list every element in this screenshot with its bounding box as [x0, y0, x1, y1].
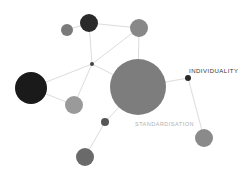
node-standardisation — [110, 59, 166, 115]
node-n3 — [130, 19, 148, 37]
node-n10 — [195, 129, 213, 147]
node-hub — [90, 62, 94, 66]
nodes-group — [15, 14, 213, 166]
node-n6 — [65, 96, 83, 114]
node-n9 — [101, 118, 109, 126]
node-n5 — [15, 72, 47, 104]
edge-line — [188, 78, 204, 138]
individuality-label: INDIVIDUALITY — [189, 68, 239, 74]
network-diagram: INDIVIDUALITY STANDARDISATION — [0, 0, 245, 177]
node-n1 — [61, 24, 73, 36]
node-n11 — [76, 148, 94, 166]
standardisation-label: STANDARDISATION — [135, 121, 194, 127]
node-individuality — [185, 75, 191, 81]
node-n2 — [80, 14, 98, 32]
